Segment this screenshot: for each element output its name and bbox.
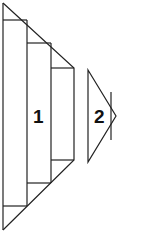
shape-2-label: 2 [94, 106, 105, 127]
shape-1-label: 1 [33, 106, 44, 127]
diagram-canvas: 1 2 [0, 0, 141, 236]
